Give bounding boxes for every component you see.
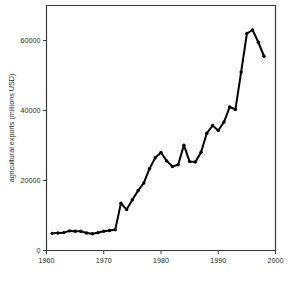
data-point [262, 55, 265, 58]
x-tick-label: 1970 [96, 256, 112, 265]
data-point [56, 231, 59, 234]
data-point [182, 143, 185, 146]
data-point [159, 151, 162, 154]
data-point [251, 28, 254, 31]
data-point [222, 120, 225, 123]
data-point [91, 232, 94, 235]
chart-container: 0200004000060000 19601970198019902000 ag… [0, 0, 290, 285]
data-point [205, 132, 208, 135]
data-point [102, 230, 105, 233]
data-point [108, 229, 111, 232]
data-point [228, 105, 231, 108]
data-point [154, 156, 157, 159]
data-series-markers [51, 28, 266, 235]
data-point [217, 129, 220, 132]
y-tick-label: 0 [37, 246, 41, 255]
y-tick-label: 40000 [21, 106, 41, 115]
data-point [79, 230, 82, 233]
y-axis-label: agricultural exports (millions USD) [7, 74, 16, 183]
data-point [165, 159, 168, 162]
data-point [245, 32, 248, 35]
data-point [114, 228, 117, 231]
data-point [119, 202, 122, 205]
x-tick-label: 2000 [268, 256, 284, 265]
data-point [73, 230, 76, 233]
x-tick-label: 1990 [210, 256, 226, 265]
data-point [211, 124, 214, 127]
data-point [194, 160, 197, 163]
line-chart: 0200004000060000 19601970198019902000 ag… [0, 0, 290, 285]
data-point [171, 165, 174, 168]
x-tick-label: 1960 [39, 256, 55, 265]
data-point [136, 189, 139, 192]
data-point [85, 231, 88, 234]
data-point [51, 232, 54, 235]
data-point [234, 108, 237, 111]
data-point [199, 150, 202, 153]
data-point [68, 229, 71, 232]
y-axis-ticks: 0200004000060000 [21, 36, 47, 255]
data-point [188, 160, 191, 163]
data-point [125, 208, 128, 211]
x-tick-label: 1980 [153, 256, 169, 265]
data-point [176, 163, 179, 166]
data-point [148, 167, 151, 170]
data-point [239, 70, 242, 73]
data-series-line [52, 30, 264, 234]
plot-frame [47, 6, 276, 251]
data-point [131, 198, 134, 201]
data-point [62, 231, 65, 234]
x-axis-ticks: 19601970198019902000 [39, 251, 284, 265]
data-point [142, 181, 145, 184]
y-tick-label: 60000 [21, 36, 41, 45]
data-point [257, 41, 260, 44]
y-tick-label: 20000 [21, 176, 41, 185]
data-point [96, 231, 99, 234]
